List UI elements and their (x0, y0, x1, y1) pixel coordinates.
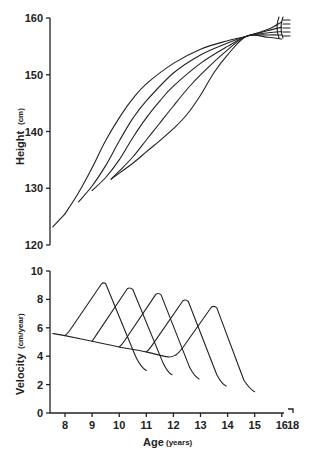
velocity-xtick-label: 8 (62, 419, 68, 431)
height-ytick-label: 140 (25, 126, 43, 138)
velocity-xtick-label: 13 (194, 419, 206, 431)
velocity-ytick-label: 2 (37, 379, 43, 391)
height-y-ticks: 120130140150160 (25, 12, 50, 251)
velocity-peak-2 (92, 288, 172, 375)
velocity-xtick-label: 10 (113, 419, 125, 431)
height-tails (283, 20, 290, 36)
velocity-ytick-label: 6 (37, 322, 43, 334)
velocity-curves (53, 283, 255, 392)
velocity-panel: 0246810 891011121314151618 Velocity (cm/… (14, 265, 299, 448)
height-panel: 120130140150160 Height (cm) (14, 12, 290, 251)
height-ylabel-unit: (cm) (16, 108, 25, 125)
velocity-xtick-label: 11 (140, 419, 152, 431)
height-ylabel: Height (14, 130, 26, 165)
height-curves (53, 22, 282, 227)
velocity-peak-3 (119, 294, 199, 379)
velocity-ytick-label: 0 (37, 407, 43, 419)
velocity-x-axis-title: Age (years) (143, 436, 193, 448)
height-curve-4 (111, 35, 282, 179)
velocity-ytick-label: 4 (37, 350, 44, 362)
height-common-start (53, 214, 65, 227)
velocity-peak-5 (176, 306, 255, 391)
height-ytick-label: 120 (25, 239, 43, 251)
velocity-ytick-label: 8 (37, 293, 43, 305)
height-y-axis-title: Height (cm) (14, 108, 26, 165)
velocity-xtick-label: 14 (221, 419, 234, 431)
growth-chart: 120130140150160 Height (cm) 0246810 8910… (0, 0, 316, 454)
height-ytick-label: 160 (25, 12, 43, 24)
velocity-x-ticks: 891011121314151618 (62, 413, 299, 431)
velocity-xtick-label: 18 (287, 419, 299, 431)
velocity-ylabel-unit: (cm/year) (16, 313, 25, 349)
height-ytick-label: 150 (25, 69, 43, 81)
velocity-xtick-label: 12 (167, 419, 179, 431)
height-curve-2 (79, 27, 282, 202)
velocity-xtick-label: 9 (89, 419, 95, 431)
velocity-y-axis-title: Velocity (cm/year) (14, 313, 26, 395)
velocity-xtick-label: 15 (249, 419, 261, 431)
x-axis-break (288, 409, 293, 413)
velocity-y-ticks: 0246810 (31, 265, 50, 419)
velocity-xlabel-unit: (years) (166, 438, 193, 447)
velocity-ylabel: Velocity (14, 353, 26, 395)
height-ytick-label: 130 (25, 182, 43, 194)
velocity-ytick-label: 10 (31, 265, 43, 277)
velocity-xlabel: Age (143, 436, 164, 448)
